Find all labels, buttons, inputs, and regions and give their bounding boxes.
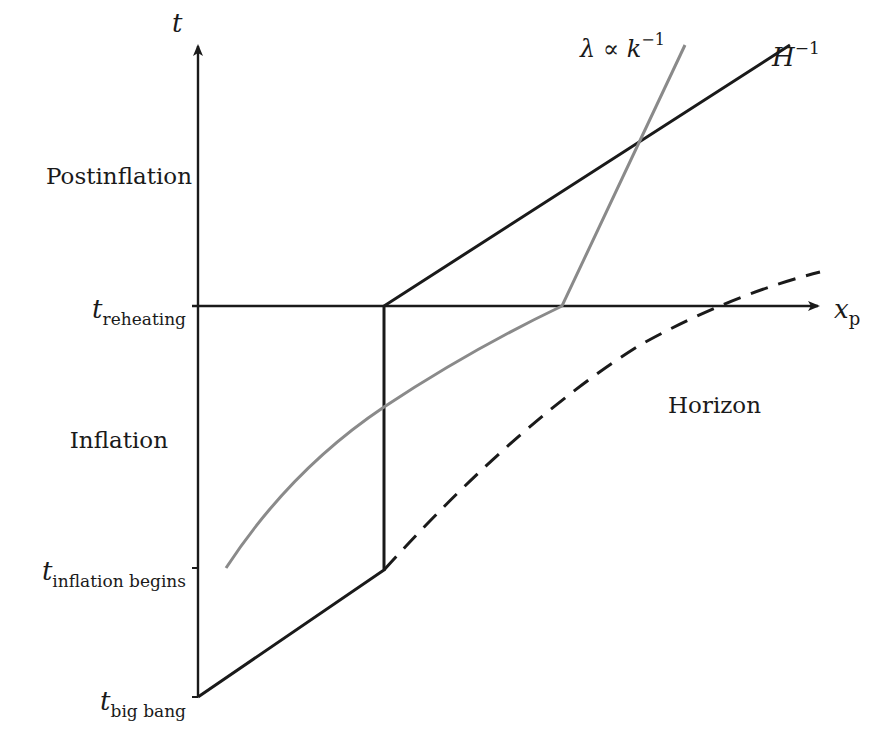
tick-label-big-bang-main: t	[100, 686, 111, 716]
tick-label-big-bang: tbig bang	[100, 686, 186, 721]
region-label-postinflation: Postinflation	[46, 163, 192, 189]
tick-label-reheating-sub: reheating	[103, 309, 187, 329]
tick-label-reheating: treheating	[92, 294, 186, 329]
x-axis-label: xp	[834, 294, 860, 329]
hubble-radius-label: H−1	[771, 38, 820, 72]
wavelength-label-sup: −1	[641, 30, 665, 49]
horizon-curve	[384, 272, 820, 570]
tick-label-reheating-main: t	[92, 294, 103, 324]
time-axis-label: t	[172, 8, 183, 38]
tick-label-inflation-begins-main: t	[42, 556, 53, 586]
tick-label-inflation-begins-sub: inflation begins	[52, 571, 186, 591]
horizon-diagram: t xp treheating tinflation begins tbig b…	[0, 0, 896, 741]
wavelength-label-main: λ ∝ k	[579, 35, 641, 63]
wavelength-label: λ ∝ k−1	[579, 30, 665, 63]
region-label-inflation: Inflation	[70, 427, 168, 453]
hubble-radius-label-sup: −1	[795, 38, 820, 58]
hubble-radius-label-main: H	[771, 42, 796, 72]
horizon-label: Horizon	[668, 392, 761, 418]
x-axis-label-main: x	[834, 294, 849, 324]
hubble-radius-curve	[198, 45, 790, 697]
x-axis-label-sub: p	[849, 308, 861, 329]
tick-label-inflation-begins: tinflation begins	[42, 556, 186, 591]
tick-label-big-bang-sub: big bang	[111, 701, 187, 721]
